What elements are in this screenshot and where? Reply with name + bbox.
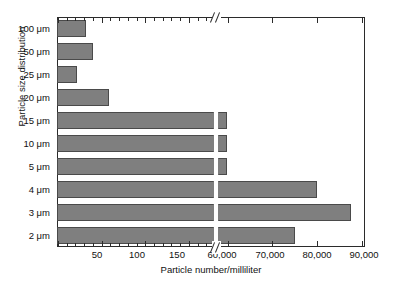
axis-tick [128, 243, 129, 246]
x-axis-title: Particle number/milliliter [57, 264, 365, 275]
axis-tick [362, 241, 363, 246]
y-axis-tick-label: 25 μm [23, 69, 50, 80]
y-axis-tick-labels: 100 μm50 μm25 μm20 μm15 μm10 μm5 μm4 μm3… [0, 17, 54, 247]
x-axis-tick-label: 80,000 [302, 249, 331, 260]
x-axis-tick-label: 150 [169, 249, 185, 260]
y-axis-tick-label: 2 μm [29, 230, 50, 241]
axis-tick [93, 243, 94, 246]
axis-tick [58, 241, 59, 246]
axis-tick [58, 18, 59, 23]
axis-tick [163, 243, 164, 246]
axis-tick [145, 241, 146, 246]
x-axis-tick-label: 60,000 [207, 249, 236, 260]
axis-tick [171, 18, 172, 21]
axis-tick [102, 18, 103, 23]
axis-tick [119, 18, 120, 21]
axis-tick [137, 18, 138, 21]
particle-size-distribution-chart: 100 μm50 μm25 μm20 μm15 μm10 μm5 μm4 μm3… [0, 0, 398, 283]
axis-tick [228, 241, 229, 246]
axis-tick [67, 243, 68, 246]
axis-tick [272, 241, 273, 246]
axis-tick [67, 18, 68, 21]
axis-tick [84, 243, 85, 246]
axis-tick [137, 243, 138, 246]
axis-tick [75, 243, 76, 246]
axis-tick [362, 18, 363, 23]
axis-tick [110, 243, 111, 246]
axis-tick [171, 243, 172, 246]
axis-tick [154, 243, 155, 246]
axis-tick [206, 243, 207, 246]
axis-tick [180, 243, 181, 246]
y-axis-tick-label: 20 μm [23, 92, 50, 103]
axis-tick [145, 18, 146, 23]
axis-tick [189, 18, 190, 23]
axis-ticks-layer [57, 17, 365, 247]
y-axis-tick-label: 4 μm [29, 184, 50, 195]
x-axis-tick-label: 50 [92, 249, 103, 260]
axis-tick [180, 18, 181, 21]
axis-tick [189, 241, 190, 246]
axis-tick [75, 18, 76, 21]
axis-tick [228, 18, 229, 23]
axis-tick [163, 18, 164, 21]
axis-tick [317, 241, 318, 246]
x-axis-tick-label: 70,000 [255, 249, 284, 260]
axis-tick [215, 18, 216, 21]
y-axis-tick-label: 50 μm [23, 46, 50, 57]
y-axis-tick-label: 3 μm [29, 207, 50, 218]
axis-tick [317, 18, 318, 23]
axis-tick [110, 18, 111, 21]
axis-tick [198, 18, 199, 21]
axis-tick [102, 241, 103, 246]
axis-tick [215, 243, 216, 246]
y-axis-tick-label: 10 μm [23, 138, 50, 149]
axis-tick [128, 18, 129, 21]
x-axis-tick-labels: 5010015060,00070,00080,00090,000 [0, 249, 398, 263]
y-axis-title: Particle size distribution [16, 0, 27, 167]
x-axis-tick-label: 90,000 [349, 249, 378, 260]
axis-tick [93, 18, 94, 21]
axis-tick [154, 18, 155, 21]
y-axis-tick-label: 5 μm [29, 161, 50, 172]
axis-tick [84, 18, 85, 21]
axis-tick [272, 18, 273, 23]
axis-tick [119, 243, 120, 246]
axis-tick [206, 18, 207, 21]
x-axis-tick-label: 100 [129, 249, 145, 260]
axis-tick [198, 243, 199, 246]
y-axis-tick-label: 15 μm [23, 115, 50, 126]
